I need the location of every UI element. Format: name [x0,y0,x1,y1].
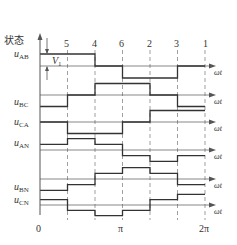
state-label: 1 [203,38,208,49]
omega-t-label: ωt [214,124,223,133]
state-label: 5 [64,38,69,49]
state-label: 6 [119,38,124,49]
omega-t-label: ωt [214,152,223,161]
omega-t-label: ωt [214,181,223,190]
arrow-up-icon [45,66,49,71]
state-axis-title: 状态 [4,34,24,46]
signal-labels: uAB uBC uCA uAN uBN uCN [14,48,29,207]
vertical-axis-arrow-icon [38,33,43,40]
six-step-inverter-waveform-diagram: ωtωtωtωtωtωt 状态 5 4 6 2 3 1 V1 uAB uBC u… [0,0,237,245]
signal-label-uca: uCA [14,116,29,129]
signal-label-ucn: uCN [14,194,29,207]
signal-label-ubc: uBC [14,96,29,109]
state-label: 2 [147,38,152,49]
x-tick-2pi: 2π [199,223,209,234]
omega-t-label: ωt [214,207,223,216]
state-label: 4 [92,38,97,49]
state-number-labels: 5 4 6 2 3 1 [64,38,208,49]
x-tick-zero: 0 [36,223,41,234]
arrow-down-icon [45,49,49,54]
signal-label-uab: uAB [14,48,29,61]
x-tick-pi: π [118,223,123,234]
amplitude-marker-v1: V1 [45,38,62,80]
signal-label-uan: uAN [14,137,29,150]
state-label: 3 [174,38,179,49]
omega-t-label: ωt [214,68,223,77]
signal-label-ubn: uBN [14,181,29,194]
omega-t-label: ωt [214,97,223,106]
